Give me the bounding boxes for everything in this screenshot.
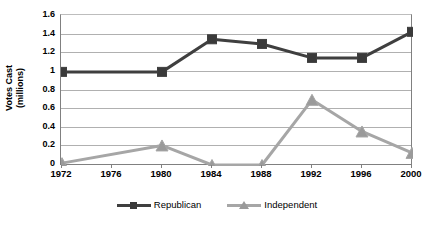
y-axis-tick-label: 0 bbox=[50, 159, 55, 168]
data-point-square-marker bbox=[208, 35, 217, 44]
legend-triangle-marker-icon bbox=[227, 199, 261, 211]
data-point-square-marker bbox=[258, 39, 267, 48]
y-axis-tick-label: 0.8 bbox=[42, 84, 55, 93]
x-axis-tick-label: 1980 bbox=[150, 168, 171, 180]
x-axis-tick-label: 2000 bbox=[400, 168, 421, 180]
x-axis-tick-label: 1976 bbox=[100, 168, 121, 180]
data-point-triangle-marker bbox=[306, 94, 318, 105]
data-point-triangle-marker bbox=[406, 147, 413, 158]
series-independent bbox=[61, 94, 413, 166]
legend-item-label: Republican bbox=[154, 199, 202, 211]
plot-area bbox=[60, 14, 412, 165]
x-axis-tick-label: 1992 bbox=[300, 168, 321, 180]
legend-item-independent[interactable]: Independent bbox=[227, 199, 317, 211]
votes-cast-line-chart: Votes Cast (millions) 00.20.40.60.811.21… bbox=[0, 0, 434, 225]
legend-item-republican[interactable]: Republican bbox=[117, 199, 202, 211]
data-point-square-marker bbox=[308, 53, 317, 62]
x-axis-tick-label: 1984 bbox=[200, 168, 221, 180]
legend-item-label: Independent bbox=[264, 199, 317, 211]
series-layer bbox=[61, 15, 413, 166]
y-axis-title: Votes Cast (millions) bbox=[0, 0, 30, 175]
data-point-square-marker bbox=[158, 67, 167, 76]
data-point-square-marker bbox=[408, 27, 414, 36]
y-axis-tick-label: 1 bbox=[50, 65, 55, 74]
y-axis-tick-label: 0.2 bbox=[42, 140, 55, 149]
y-axis-tick-label: 1.2 bbox=[42, 47, 55, 56]
data-point-square-marker bbox=[61, 67, 67, 76]
data-point-square-marker bbox=[358, 53, 367, 62]
y-axis-title-line1: Votes Cast bbox=[4, 65, 15, 111]
series-republican bbox=[61, 27, 413, 76]
y-axis-tick-label: 0.4 bbox=[42, 121, 55, 130]
y-axis-tick-labels: 00.20.40.60.811.21.41.6 bbox=[30, 10, 58, 165]
x-axis-tick-labels: 19721976198019841988199219962000 bbox=[60, 168, 412, 184]
x-axis-tick-label: 1988 bbox=[250, 168, 271, 180]
y-axis-title-line2: (millions) bbox=[15, 65, 26, 111]
x-axis-tick-label: 1996 bbox=[350, 168, 371, 180]
y-axis-tick-label: 1.4 bbox=[42, 28, 55, 37]
y-axis-tick-label: 1.6 bbox=[42, 10, 55, 19]
legend-square-marker-icon bbox=[117, 199, 151, 211]
x-axis-tick-label: 1972 bbox=[50, 168, 71, 180]
y-axis-tick-label: 0.6 bbox=[42, 103, 55, 112]
chart-legend: RepublicanIndependent bbox=[0, 196, 434, 214]
series-line bbox=[62, 32, 412, 72]
